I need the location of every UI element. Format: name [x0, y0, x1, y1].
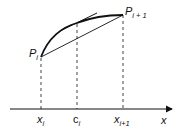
point-label-p-i1: Pi + 1 — [125, 6, 147, 20]
point-label-p-i: Pi — [29, 48, 38, 62]
diagram-canvas — [0, 0, 179, 134]
tangent-line — [60, 13, 97, 31]
tick-label-xi: xi — [37, 114, 44, 128]
tick-label-xi1: xi+1 — [114, 114, 130, 128]
tick-label-ci: ci — [73, 114, 80, 128]
axis-label-x: x — [161, 115, 167, 126]
